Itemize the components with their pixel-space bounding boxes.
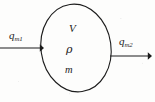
control-volume-boundary xyxy=(35,0,117,96)
outlet-arrowhead-icon xyxy=(148,52,152,59)
volume-symbol: V xyxy=(69,23,76,34)
inlet-flow-subscript: m1 xyxy=(15,35,23,42)
outlet-flow-arrow xyxy=(110,52,152,59)
outlet-flow-subscript: m2 xyxy=(125,41,133,48)
diagram-canvas xyxy=(0,0,155,102)
outlet-flow-label: qm2 xyxy=(119,36,133,49)
density-symbol: ρ xyxy=(66,44,72,55)
inlet-flow-label: qm1 xyxy=(9,30,23,43)
control-volume-figure: qm1 qm2 V ρ m xyxy=(0,0,155,102)
mass-symbol: m xyxy=(65,65,73,76)
inlet-flow-arrow xyxy=(0,44,44,51)
